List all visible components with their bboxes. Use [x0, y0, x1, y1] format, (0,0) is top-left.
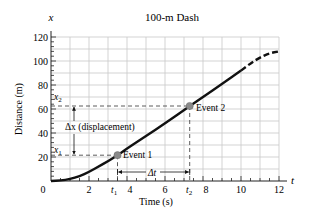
y-axis-label: Distance (m)	[13, 83, 25, 135]
y-tick-label: 100	[33, 56, 48, 67]
x-tick-label: 8	[204, 184, 209, 195]
x-tick-label: 2	[87, 184, 92, 195]
x-tick-label: 10	[236, 184, 246, 195]
y-tick-label: 120	[33, 32, 48, 43]
t2-label: t2	[186, 185, 193, 197]
chart-labels: 100-m Dash x t Time (s) Distance (m) Eve…	[13, 11, 295, 208]
event-2-marker	[186, 102, 193, 109]
event-1-label: Event 1	[123, 150, 153, 160]
x-axis-symbol: t	[291, 174, 295, 186]
y-tick-label: 60	[38, 104, 48, 115]
x-tick-label: 0	[41, 184, 46, 195]
x-axis-label: Time (s)	[139, 196, 173, 208]
event-guides	[51, 106, 190, 181]
distance-time-chart: 100-m Dash x t Time (s) Distance (m) Eve…	[0, 0, 311, 222]
y-tick-label: 40	[38, 128, 48, 139]
y-axis-symbol: x	[48, 11, 54, 23]
x2-label: x2	[53, 92, 62, 104]
t1-label: t1	[111, 185, 118, 197]
event-2-label: Event 2	[196, 103, 226, 113]
chart-title: 100-m Dash	[145, 11, 200, 23]
grid	[51, 37, 279, 181]
delta-t-label: Δt	[147, 168, 157, 178]
event-1-marker	[114, 152, 121, 159]
x-tick-label: 6	[163, 184, 168, 195]
x-tick-label: 4	[128, 184, 133, 195]
y-tick-label: 20	[38, 152, 48, 163]
y-tick-label: 80	[38, 80, 48, 91]
displacement-label: Δx (displacement)	[65, 122, 135, 133]
x-tick-label: 12	[274, 184, 284, 195]
